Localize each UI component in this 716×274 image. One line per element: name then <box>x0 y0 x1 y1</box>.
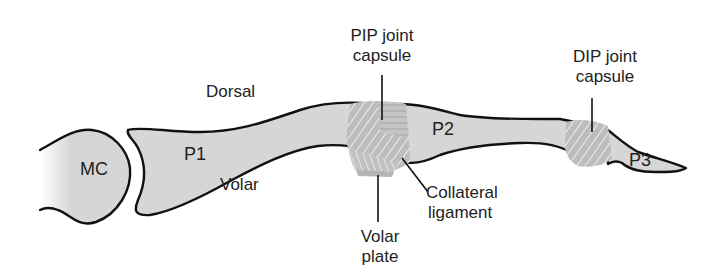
volar-label: Volar <box>220 175 259 195</box>
volar-plate-line1: Volar <box>361 227 400 247</box>
pip-capsule-line2: capsule <box>350 46 413 66</box>
dip-joint-capsule <box>565 120 612 167</box>
middle-phalanx-bone <box>400 104 575 163</box>
pip-capsule-label: PIP joint capsule <box>350 26 413 66</box>
dip-capsule-line1: DIP joint <box>573 47 637 67</box>
collateral-line1: Collateral <box>426 183 498 203</box>
dip-capsule-line2: capsule <box>573 67 637 87</box>
collateral-ligament-label: Collateral ligament <box>426 183 498 223</box>
dorsal-label: Dorsal <box>206 82 255 102</box>
p1-label: P1 <box>184 144 206 164</box>
pip-capsule-line1: PIP joint <box>350 26 413 46</box>
p3-label: P3 <box>629 150 651 170</box>
p2-label: P2 <box>432 119 454 139</box>
mc-label: MC <box>80 159 108 179</box>
volar-plate-label: Volar plate <box>361 227 400 267</box>
proximal-phalanx-bone <box>128 103 370 216</box>
volar-plate-line2: plate <box>361 247 400 267</box>
dip-capsule-label: DIP joint capsule <box>573 47 637 87</box>
collateral-line2: ligament <box>428 203 498 223</box>
